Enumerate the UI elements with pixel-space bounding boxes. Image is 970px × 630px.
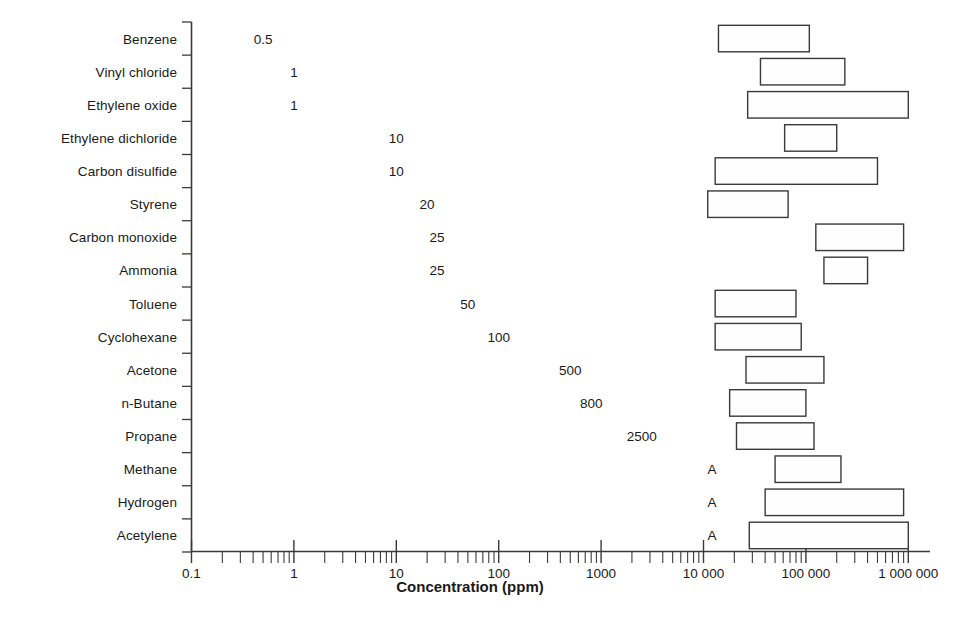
range-bar	[715, 158, 877, 185]
oel-value-label: 2500	[627, 429, 657, 444]
range-bar	[748, 92, 909, 119]
oel-value-label: 25	[430, 230, 445, 245]
category-label: Propane	[0, 429, 177, 444]
range-bar	[760, 58, 844, 85]
category-label: Hydrogen	[0, 495, 177, 510]
range-bar	[736, 423, 814, 450]
oel-value-label: 10	[389, 130, 404, 145]
category-label: n-Butane	[0, 395, 177, 410]
category-label: Acetylene	[0, 528, 177, 543]
x-tick-label: 0.1	[182, 566, 201, 581]
category-label: Benzene	[0, 31, 177, 46]
category-label: Ethylene oxide	[0, 97, 177, 112]
category-label: Acetone	[0, 362, 177, 377]
oel-value-label: 10	[389, 164, 404, 179]
category-label: Ammonia	[0, 263, 177, 278]
range-bar	[785, 125, 837, 152]
category-label: Styrene	[0, 197, 177, 212]
x-tick-label: 100 000	[781, 566, 830, 581]
category-label: Ethylene dichloride	[0, 130, 177, 145]
range-bar	[746, 357, 824, 384]
range-bar	[718, 25, 809, 52]
range-bar	[715, 323, 801, 350]
x-axis-title: Concentration (ppm)	[396, 578, 544, 595]
range-bar	[765, 489, 903, 516]
x-tick-label: 1	[290, 566, 298, 581]
asphyxiant-marker: A	[707, 495, 716, 510]
category-label: Methane	[0, 462, 177, 477]
category-label: Carbon monoxide	[0, 230, 177, 245]
oel-value-label: 100	[487, 329, 510, 344]
range-bar	[730, 390, 806, 417]
asphyxiant-marker: A	[707, 462, 716, 477]
asphyxiant-marker: A	[707, 528, 716, 543]
x-tick-label: 1000	[586, 566, 616, 581]
category-label: Vinyl chloride	[0, 64, 177, 79]
range-bars-group	[708, 25, 909, 548]
range-bar	[824, 257, 868, 284]
range-bar	[715, 290, 796, 317]
category-label: Cyclohexane	[0, 329, 177, 344]
oel-value-label: 500	[559, 362, 582, 377]
y-axis-ticks	[182, 22, 192, 552]
range-bar	[708, 191, 788, 218]
range-bar	[775, 456, 841, 483]
x-tick-label: 10 000	[683, 566, 724, 581]
oel-value-label: 25	[430, 263, 445, 278]
category-label: Toluene	[0, 296, 177, 311]
oel-value-label: 800	[580, 395, 603, 410]
x-tick-label: 1 000 000	[878, 566, 938, 581]
category-label: Carbon disulfide	[0, 164, 177, 179]
chart-container: BenzeneVinyl chlorideEthylene oxideEthyl…	[0, 0, 970, 630]
oel-value-label: 0.5	[254, 31, 273, 46]
oel-value-label: 1	[290, 97, 298, 112]
oel-value-label: 20	[420, 197, 435, 212]
oel-value-label: 1	[290, 64, 298, 79]
range-bar	[749, 522, 908, 549]
range-bar	[816, 224, 904, 251]
oel-value-label: 50	[460, 296, 475, 311]
